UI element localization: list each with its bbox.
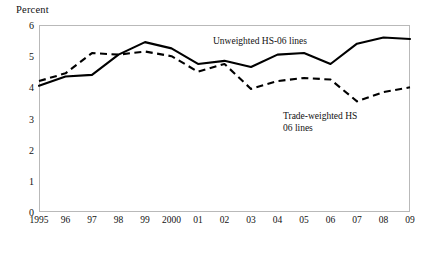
line-series-trade-weighted (39, 51, 410, 101)
chart-container: Percent 0123456 199596979899200001020304… (0, 0, 425, 256)
annotation-trade-weighted-series: Trade-weighted HS 06 lines (283, 111, 357, 134)
annotation-unweighted-series: Unweighted HS-06 lines (213, 36, 307, 48)
